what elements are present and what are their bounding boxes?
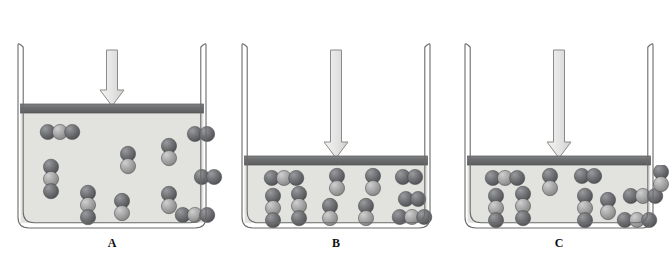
piston-bar bbox=[468, 156, 651, 165]
panel-c: 2CO2 2CO+O2 bbox=[447, 0, 670, 261]
piston-vessel-b bbox=[224, 0, 448, 232]
panel-b: 2CO2 2CO+O2 bbox=[224, 0, 448, 261]
piston-vessel-c bbox=[447, 0, 670, 232]
panel-label-c: C bbox=[447, 236, 670, 251]
figure-root: 2CO2 2CO+O2 bbox=[0, 0, 670, 261]
panel-label-b: B bbox=[224, 236, 448, 251]
piston-vessel-a bbox=[0, 0, 224, 232]
panel-label-a: A bbox=[0, 236, 224, 251]
piston-bar bbox=[21, 104, 204, 113]
piston-bar bbox=[245, 156, 428, 165]
panel-a: 2CO2 2CO+O2 bbox=[0, 0, 224, 261]
